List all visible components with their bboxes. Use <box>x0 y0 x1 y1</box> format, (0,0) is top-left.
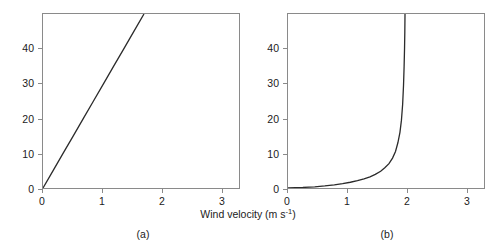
x-tick-mark-a-1 <box>102 189 103 193</box>
x-tick-label-a-2: 2 <box>159 196 165 207</box>
x-axis-title-superscript: -1 <box>286 207 293 216</box>
x-tick-label-b-2: 2 <box>404 196 410 207</box>
y-tick-label-b-40: 40 <box>253 43 279 54</box>
y-tick-label-a-0: 0 <box>8 184 34 195</box>
y-tick-label-b-10: 10 <box>253 149 279 160</box>
x-axis-title-text: Wind velocity (m s <box>200 208 285 220</box>
x-tick-label-b-3: 3 <box>464 196 470 207</box>
y-tick-label-b-20: 20 <box>253 113 279 124</box>
y-tick-label-a-40: 40 <box>8 43 34 54</box>
y-tick-label-b-0: 0 <box>253 184 279 195</box>
y-tick-mark-a-10 <box>38 154 42 155</box>
x-tick-mark-a-2 <box>162 189 163 193</box>
wind-velocity-profile-figure: Height (mm) 0 10 20 30 40 0 1 2 3 (a) <box>0 0 497 247</box>
x-tick-label-b-1: 1 <box>344 196 350 207</box>
x-tick-label-a-0: 0 <box>39 196 45 207</box>
x-tick-mark-b-0 <box>287 189 288 193</box>
x-tick-mark-b-1 <box>347 189 348 193</box>
x-axis-title: Wind velocity (m s-1) <box>200 208 295 220</box>
x-tick-label-b-0: 0 <box>284 196 290 207</box>
x-tick-mark-a-3 <box>222 189 223 193</box>
y-tick-label-b-30: 30 <box>253 78 279 89</box>
plot-line-b <box>288 14 484 188</box>
y-tick-mark-a-30 <box>38 83 42 84</box>
y-tick-label-a-30: 30 <box>8 78 34 89</box>
x-tick-mark-b-3 <box>467 189 468 193</box>
plot-line-a <box>43 14 239 188</box>
y-tick-mark-b-20 <box>283 119 287 120</box>
y-tick-mark-a-40 <box>38 48 42 49</box>
x-axis-title-close-paren: ) <box>292 208 296 220</box>
y-tick-mark-b-10 <box>283 154 287 155</box>
plot-area-b <box>287 13 485 189</box>
y-tick-mark-a-20 <box>38 119 42 120</box>
y-tick-mark-b-40 <box>283 48 287 49</box>
y-tick-mark-b-30 <box>283 83 287 84</box>
panel-caption-b: (b) <box>381 228 394 240</box>
panel-caption-a: (a) <box>137 228 150 240</box>
x-tick-mark-a-0 <box>42 189 43 193</box>
x-tick-label-a-3: 3 <box>219 196 225 207</box>
plot-area-a <box>42 13 240 189</box>
y-tick-label-a-20: 20 <box>8 113 34 124</box>
x-tick-label-a-1: 1 <box>99 196 105 207</box>
y-tick-label-a-10: 10 <box>8 149 34 160</box>
x-tick-mark-b-2 <box>407 189 408 193</box>
